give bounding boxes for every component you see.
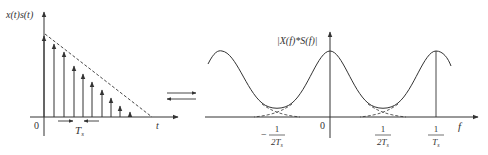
frequency-tick-label: 1Ts bbox=[428, 124, 444, 148]
svg-text:1: 1 bbox=[381, 124, 386, 134]
sample-impulses bbox=[44, 36, 130, 117]
frequency-domain-plot: |X(f)*S(f)| 0 f −12Ts12Ts1Ts bbox=[205, 32, 478, 148]
sampling-interval-label: Ts bbox=[75, 124, 84, 138]
frequency-tick-labels: −12Ts12Ts1Ts bbox=[261, 124, 444, 148]
svg-text:−: − bbox=[261, 129, 267, 140]
x-axis-label: t bbox=[156, 120, 159, 131]
fourier-transform-arrows bbox=[167, 93, 196, 99]
svg-text:2Ts: 2Ts bbox=[377, 137, 390, 148]
time-domain-plot: Ts x(t)s(t) 0 t bbox=[5, 9, 178, 138]
frequency-tick-label: 12Ts bbox=[375, 124, 391, 148]
magnitude-axis-label: |X(f)*S(f)| bbox=[277, 35, 317, 47]
svg-text:1: 1 bbox=[275, 124, 280, 134]
svg-text:1: 1 bbox=[434, 124, 439, 134]
y-axis-label: x(t)s(t) bbox=[5, 9, 34, 21]
origin-label-f: 0 bbox=[320, 120, 325, 131]
svg-text:2Ts: 2Ts bbox=[271, 137, 284, 148]
frequency-tick-label: −12Ts bbox=[261, 124, 285, 148]
origin-label: 0 bbox=[34, 120, 39, 131]
sampling-diagram: Ts x(t)s(t) 0 t |X(f)*S(f)| 0 f −12Ts12T… bbox=[0, 0, 488, 155]
f-axis-label: f bbox=[458, 120, 463, 132]
envelope-dashed-line bbox=[45, 34, 152, 117]
svg-text:Ts: Ts bbox=[432, 137, 440, 148]
